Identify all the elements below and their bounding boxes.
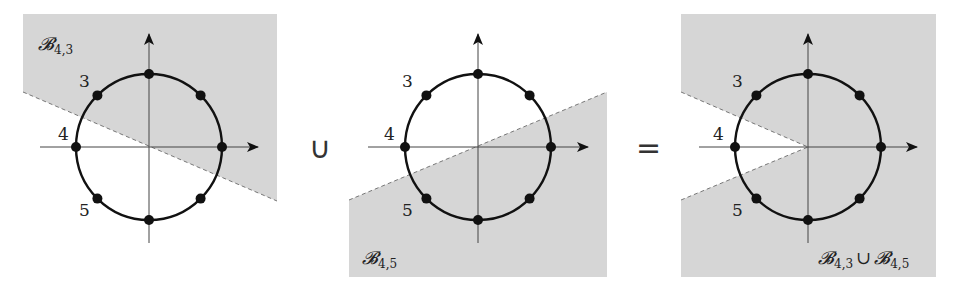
label-4: 4 <box>384 124 395 144</box>
label-4: 4 <box>713 124 724 144</box>
label-3: 3 <box>732 71 743 91</box>
label-5: 5 <box>79 200 90 220</box>
label-3: 3 <box>79 71 90 91</box>
equals-operator: = <box>636 130 661 165</box>
panel-3: 3 4 5 𝓑4,3∪𝓑4,5 <box>681 14 936 277</box>
label-3: 3 <box>402 71 413 91</box>
panel-2: 3 4 5 𝓑4,5 <box>349 34 607 277</box>
panel-1: 3 4 5 𝓑4,3 <box>23 14 277 243</box>
union-of-regions-diagram: 3 4 5 𝓑4,3 ∪ 3 4 5 𝓑4,5 = <box>0 0 960 291</box>
union-operator: ∪ <box>309 130 331 165</box>
label-4: 4 <box>58 124 69 144</box>
label-5: 5 <box>732 200 743 220</box>
label-5: 5 <box>402 200 413 220</box>
